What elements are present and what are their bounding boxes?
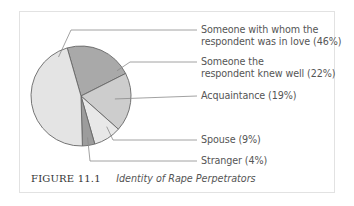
figure-number: FIGURE 11.1 (31, 173, 101, 184)
label-spouse: Spouse (9%) (201, 134, 261, 146)
label-line: Stranger (4%) (201, 155, 267, 167)
label-knew-well: Someone the respondent knew well (22%) (201, 56, 335, 79)
leader-line (117, 62, 197, 71)
leader-line (88, 137, 197, 161)
label-line: Someone the (201, 56, 335, 68)
pie-slices (31, 46, 131, 146)
figure-caption: FIGURE 11.1 Identity of Rape Perpetrator… (31, 172, 256, 184)
label-acquaintance: Acquaintance (19%) (201, 90, 296, 102)
label-line: respondent was in love (46%) (201, 36, 341, 48)
figure-title: Identity of Rape Perpetrators (116, 173, 255, 184)
leader-line (107, 127, 197, 140)
label-line: respondent knew well (22%) (201, 68, 335, 80)
label-stranger: Stranger (4%) (201, 155, 267, 167)
label-line: Spouse (9%) (201, 134, 261, 146)
label-line: Acquaintance (19%) (201, 90, 296, 102)
label-line: Someone with whom the (201, 24, 341, 36)
label-in-love: Someone with whom the respondent was in … (201, 24, 341, 47)
